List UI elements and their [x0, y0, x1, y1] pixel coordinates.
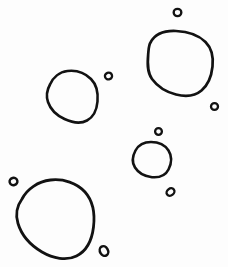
blob-diagram-svg: [0, 0, 228, 267]
drawing-canvas: [0, 0, 228, 267]
background-rect: [0, 0, 228, 267]
